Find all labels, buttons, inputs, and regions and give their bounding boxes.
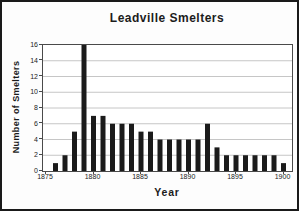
bar-1887 [158,140,163,172]
bar-1876 [53,163,58,171]
bar-1888 [167,140,172,172]
bar-1891 [196,140,201,172]
chart-frame: Leadville Smelters Number of Smelters 02… [0,0,299,211]
x-tick-mark [45,171,46,174]
plot-area [42,44,293,172]
x-tick-label: 1890 [180,173,196,180]
x-tick-label: 1875 [37,173,53,180]
y-tick-mark [39,59,42,60]
y-tick-mark [39,122,42,123]
bar-1881 [101,116,106,171]
bar-1885 [139,132,144,171]
y-tick-label: 4 [14,135,38,142]
x-tick-mark [235,171,236,174]
y-tick-mark [39,44,42,45]
x-tick-label: 1880 [85,173,101,180]
y-tick-label: 2 [14,151,38,158]
y-tick-label: 10 [14,88,38,95]
bar-1879 [82,45,87,171]
bar-1877 [63,155,68,171]
bar-1886 [148,132,153,171]
bar-1890 [186,140,191,172]
bar-1884 [129,124,134,171]
bar-chart [43,45,292,171]
bar-1894 [224,155,229,171]
bar-1893 [215,147,220,171]
y-tick-label: 6 [14,119,38,126]
x-tick-mark [188,171,189,174]
bar-1895 [234,155,239,171]
bar-1880 [91,116,96,171]
y-tick-label: 14 [14,56,38,63]
y-tick-mark [39,170,42,171]
bar-1897 [253,155,258,171]
x-tick-mark [93,171,94,174]
bar-1896 [243,155,248,171]
y-tick-label: 8 [14,104,38,111]
y-tick-label: 16 [14,41,38,48]
bar-1899 [272,155,277,171]
bar-1900 [281,163,286,171]
y-tick-mark [39,91,42,92]
y-tick-mark [39,138,42,139]
x-tick-label: 1895 [227,173,243,180]
y-tick-mark [39,107,42,108]
x-tick-label: 1900 [275,173,291,180]
bar-1878 [72,132,77,171]
bar-1892 [205,124,210,171]
x-tick-label: 1885 [132,173,148,180]
bar-1898 [262,155,267,171]
x-axis-title: Year [42,186,292,198]
y-tick-label: 12 [14,72,38,79]
y-tick-mark [39,75,42,76]
chart-title: Leadville Smelters [42,11,292,25]
y-tick-label: 0 [14,167,38,174]
bar-1882 [110,124,115,171]
x-tick-mark [140,171,141,174]
bar-1889 [177,140,182,172]
y-tick-mark [39,154,42,155]
x-tick-mark [283,171,284,174]
bar-1883 [120,124,125,171]
